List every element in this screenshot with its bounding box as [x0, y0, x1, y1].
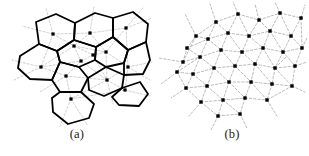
- mesh-node: [240, 50, 243, 53]
- triangulation-edge: [223, 100, 240, 114]
- triangulation-edge: [221, 50, 242, 52]
- triangulation-edge: [291, 36, 302, 48]
- delaunay-edge: [41, 34, 53, 67]
- mesh-node: [184, 86, 187, 89]
- site-node: [72, 44, 75, 47]
- mesh-node: [216, 114, 219, 117]
- triangulation-edge: [221, 33, 228, 50]
- mesh-node: [194, 34, 197, 37]
- mesh-node: [299, 16, 302, 19]
- triangulation-edge: [275, 52, 283, 68]
- voronoi-cell-group: [18, 12, 150, 124]
- voronoi-cell: [52, 92, 94, 124]
- triangulation-edge: [228, 33, 242, 52]
- site-node: [124, 26, 127, 29]
- triangulation-edge: [196, 22, 216, 36]
- mesh-node: [206, 37, 209, 40]
- boundary-stub: [159, 58, 183, 62]
- delaunay-edge: [66, 76, 71, 99]
- boundary-stub: [233, 2, 238, 14]
- mesh-node: [198, 55, 201, 58]
- mesh-node: [238, 112, 241, 115]
- triangulation-edge: [207, 82, 229, 86]
- boundary-stub: [210, 4, 216, 22]
- triangulation-edge: [177, 72, 186, 88]
- site-node: [104, 50, 107, 53]
- mesh-node: [243, 96, 246, 99]
- site-node: [51, 32, 54, 35]
- triangulation-edge: [280, 13, 301, 18]
- triangulation-edge: [235, 66, 251, 82]
- panel-a-caption: (a): [0, 128, 154, 141]
- mesh-node: [270, 82, 273, 85]
- site-node: [69, 97, 72, 100]
- triangulation-edge: [183, 57, 200, 62]
- triangulation-edge-group: [177, 13, 302, 116]
- triangulation-edge: [263, 48, 275, 68]
- mesh-node-group: [175, 11, 303, 117]
- delaunay-edge: [53, 33, 90, 34]
- delaunay-edge: [90, 28, 126, 33]
- triangulation-edge: [280, 13, 291, 36]
- boundary-stub: [189, 102, 201, 116]
- voronoi-diagram-svg: [0, 0, 154, 130]
- triangulation-edge: [218, 100, 223, 116]
- triangulation-edge: [242, 48, 263, 52]
- triangulation-edge: [238, 14, 259, 20]
- boundary-stub: [185, 14, 196, 36]
- panel-a: (a): [0, 0, 154, 156]
- triangulation-edge: [216, 22, 228, 33]
- boundary-stub: [267, 100, 277, 116]
- delaunay-edge: [74, 46, 106, 52]
- triangulation-edge: [283, 48, 302, 52]
- site-node: [79, 59, 82, 62]
- triangulation-edge: [235, 52, 242, 66]
- triangulation-edge: [177, 72, 193, 74]
- site-node: [91, 53, 94, 56]
- triangulation-edge: [223, 98, 245, 100]
- triangulation-edge: [251, 82, 267, 100]
- triangulation-edge: [218, 114, 240, 116]
- mesh-node: [227, 80, 230, 83]
- triangulation-edge: [249, 36, 263, 48]
- boundary-stub: [12, 60, 41, 67]
- triangulation-edge: [200, 57, 214, 68]
- triangulation-edge: [270, 31, 291, 36]
- mesh-node: [191, 72, 194, 75]
- triangulation-edge: [196, 36, 208, 39]
- triangulation-edge: [245, 82, 251, 98]
- mesh-node: [236, 12, 239, 15]
- boundary-stub: [161, 72, 177, 84]
- mesh-node: [278, 11, 281, 14]
- triangulation-edge: [255, 48, 263, 64]
- triangulation-edge: [240, 98, 245, 114]
- triangulation-edge: [291, 18, 301, 36]
- triangulation-edge: [251, 82, 272, 84]
- boundary-stub: [292, 86, 305, 92]
- site-node: [105, 78, 108, 81]
- triangulation-edge: [193, 74, 207, 86]
- triangulation-edge: [201, 100, 223, 102]
- triangulation-edge: [301, 18, 302, 48]
- triangulation-edge: [193, 68, 214, 74]
- voronoi-cell: [95, 37, 128, 67]
- triangulation-edge: [208, 33, 228, 39]
- triangulation-edge: [216, 14, 238, 22]
- triangulation-edge: [221, 50, 235, 66]
- triangulation-edge: [183, 36, 196, 62]
- triangulation-edge: [235, 64, 255, 66]
- triangulation-edge: [272, 84, 292, 86]
- mesh-node: [233, 64, 236, 67]
- triangulation-edge: [214, 66, 235, 68]
- mesh-node: [175, 70, 178, 73]
- triangulation-edge: [186, 86, 207, 88]
- mesh-node: [289, 34, 292, 37]
- mesh-node: [249, 80, 252, 83]
- triangulation-edge: [283, 52, 295, 66]
- triangulation-edge: [295, 48, 302, 66]
- panel-b: (b): [155, 0, 309, 156]
- triangulation-edge: [187, 48, 200, 57]
- mesh-node: [293, 64, 296, 67]
- triangulation-edge: [242, 36, 249, 52]
- mesh-node: [261, 46, 264, 49]
